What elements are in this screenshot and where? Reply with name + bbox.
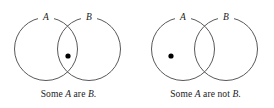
member-dot-intersection: [65, 53, 70, 58]
caption-some-a-are-not-b: Some A are not B.: [137, 88, 274, 101]
caption-some-a-are-b: Some A are B.: [0, 88, 137, 101]
circle-a-outline: [15, 18, 78, 81]
caption-copula: are not: [201, 89, 233, 99]
venn-diagram-some-a-are-b: A B: [0, 0, 137, 88]
diagram-panel-some-a-are-b: A B Some A are B.: [0, 0, 137, 108]
circle-b-outline: [195, 18, 258, 81]
set-label-a: A: [179, 12, 186, 22]
set-label-b: B: [223, 12, 229, 22]
member-dot-left-only: [168, 53, 173, 58]
set-label-a: A: [42, 12, 49, 22]
circle-b-outline: [58, 18, 121, 81]
caption-period: .: [238, 89, 240, 99]
caption-lead: Some: [41, 89, 66, 99]
caption-period: .: [94, 89, 96, 99]
venn-diagram-some-a-are-not-b: A B: [137, 0, 274, 88]
circle-a-outline: [152, 18, 215, 81]
caption-copula: are: [71, 89, 88, 99]
caption-lead: Some: [170, 89, 195, 99]
euler-diagram-figure: A B Some A are B. A B Some A are not B.: [0, 0, 274, 108]
diagram-panel-some-a-are-not-b: A B Some A are not B.: [137, 0, 274, 108]
set-label-b: B: [86, 12, 92, 22]
